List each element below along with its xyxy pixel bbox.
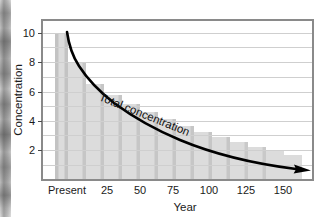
y-tick-label-2: 2: [29, 144, 35, 156]
y-tick-label-8: 8: [29, 56, 35, 68]
x-tick-label-75: 75: [167, 184, 179, 196]
x-tick-label-150: 150: [274, 184, 292, 196]
x-tick-label-125: 125: [237, 184, 255, 196]
x-tick-label-25: 25: [101, 184, 113, 196]
y-tick-label-6: 6: [29, 86, 35, 98]
y-tick-label-4: 4: [29, 115, 35, 127]
figure-chart-total-concentration: Total concentration 10 8 6 4 2 Concentra…: [0, 0, 324, 217]
y-tick-label-10: 10: [23, 27, 35, 39]
x-axis-title: Year: [173, 201, 196, 213]
x-tick-label-present: Present: [48, 184, 86, 196]
x-tick-label-100: 100: [200, 184, 218, 196]
x-tick-label-50: 50: [134, 184, 146, 196]
y-axis-title: Concentration: [12, 64, 24, 136]
concentration-decay-chart: Total concentration 10 8 6 4 2 Concentra…: [0, 0, 324, 217]
